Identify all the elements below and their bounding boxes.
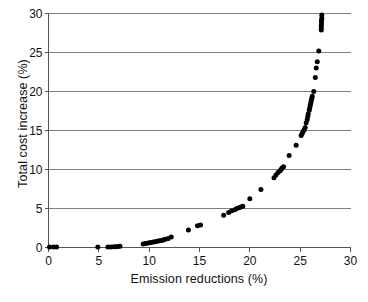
x-tick-label: 25 [285, 255, 315, 267]
data-point [313, 75, 318, 80]
gridlines-group [49, 14, 351, 209]
data-point [311, 89, 316, 94]
data-point [117, 244, 122, 249]
y-tick-label: 30 [17, 8, 43, 20]
y-tick-label: 25 [17, 47, 43, 59]
data-point [316, 48, 321, 53]
data-point [95, 245, 100, 250]
data-point [310, 94, 315, 99]
data-point [303, 125, 308, 130]
y-tick-label: 15 [17, 125, 43, 137]
data-point [247, 196, 252, 201]
y-tick-label: 10 [17, 164, 43, 176]
data-points-group [47, 13, 324, 250]
data-point [258, 187, 263, 192]
x-tick-label: 5 [84, 255, 114, 267]
chart-figure: Total cost increase (%) Emission reducti… [0, 0, 368, 302]
data-point [221, 213, 226, 218]
y-tick-label: 5 [17, 203, 43, 215]
data-point [315, 59, 320, 64]
data-point [287, 153, 292, 158]
data-point [54, 245, 59, 250]
data-point [186, 227, 191, 232]
data-point [169, 234, 174, 239]
data-point [314, 66, 319, 71]
x-tick-label: 30 [336, 255, 366, 267]
data-point [294, 143, 299, 148]
x-tick-label: 20 [235, 255, 265, 267]
data-point [240, 204, 245, 209]
x-tick-label: 0 [34, 255, 64, 267]
y-tick-label: 20 [17, 86, 43, 98]
y-tick-label: 0 [17, 242, 43, 254]
data-point [319, 13, 324, 18]
x-tick-label: 10 [134, 255, 164, 267]
data-point [198, 222, 203, 227]
data-point [281, 164, 286, 169]
x-tick-label: 15 [185, 255, 215, 267]
